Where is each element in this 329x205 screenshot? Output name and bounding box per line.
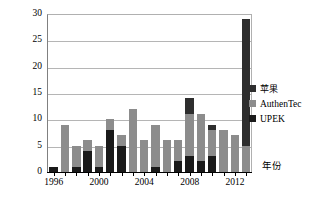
x-tick <box>218 172 229 176</box>
x-axis-label-2008: 2008 <box>180 177 199 187</box>
bar-series-group <box>48 14 252 172</box>
legend-label-authentec: AuthenTec <box>260 99 302 109</box>
legend-item-upek: UPEK <box>249 112 329 125</box>
bar-2001 <box>106 119 114 172</box>
bar-slot <box>48 14 59 172</box>
bar-2007 <box>174 140 182 172</box>
bar-segment <box>83 140 91 151</box>
y-tick-20: 20 <box>24 62 42 72</box>
bar-slot <box>161 14 172 172</box>
bar-segment <box>231 135 239 172</box>
bar-chart: 30 25 20 15 10 5 0 申请量/项 199620002004200… <box>0 0 329 205</box>
bar-slot <box>71 14 82 172</box>
bar-segment <box>106 119 114 130</box>
bar-slot <box>173 14 184 172</box>
bar-segment <box>185 156 193 172</box>
x-tick <box>195 172 206 176</box>
bar-slot <box>150 14 161 172</box>
x-tick <box>229 172 240 176</box>
x-tick <box>173 172 184 176</box>
x-tick <box>207 172 218 176</box>
bar-segment <box>208 156 216 172</box>
bar-segment <box>208 130 216 156</box>
legend-label-apple: 苹果 <box>260 84 278 94</box>
bar-segment <box>197 114 205 161</box>
bar-segment <box>129 109 137 172</box>
bar-segment <box>197 161 205 172</box>
bar-slot <box>82 14 93 172</box>
legend-label-upek: UPEK <box>260 114 285 124</box>
x-axis-title: 年份 <box>262 158 282 172</box>
bar-2010 <box>208 125 216 172</box>
bar-segment <box>83 151 91 172</box>
bar-2004 <box>140 140 148 172</box>
legend-item-authentec: AuthenTec <box>249 97 329 110</box>
x-axis-label-2012: 2012 <box>226 177 245 187</box>
y-axis-title: 申请量/项 <box>0 106 48 145</box>
bar-slot <box>105 14 116 172</box>
bar-slot <box>218 14 229 172</box>
legend: 苹果 AuthenTec UPEK <box>249 82 329 127</box>
x-axis-label-2004: 2004 <box>135 177 154 187</box>
bar-segment <box>185 114 193 156</box>
y-tick-0: 0 <box>24 167 42 177</box>
x-axis-ticks <box>48 172 252 176</box>
y-axis-labels: 30 25 20 15 10 5 0 <box>24 0 42 205</box>
bar-segment <box>151 125 159 167</box>
bar-segment <box>140 140 148 172</box>
bar-2011 <box>219 130 227 172</box>
y-axis-title-wrap: 申请量/项 <box>8 50 22 130</box>
legend-item-apple: 苹果 <box>249 82 329 95</box>
legend-swatch-authentec-icon <box>249 100 256 107</box>
x-tick <box>161 172 172 176</box>
x-tick <box>116 172 127 176</box>
bar-slot <box>93 14 104 172</box>
bar-slot <box>207 14 218 172</box>
bar-2002 <box>117 135 125 172</box>
bar-slot <box>195 14 206 172</box>
x-tick <box>82 172 93 176</box>
x-tick <box>127 172 138 176</box>
x-tick <box>105 172 116 176</box>
bar-segment <box>95 146 103 167</box>
bar-segment <box>106 130 114 172</box>
x-tick <box>150 172 161 176</box>
bar-segment <box>174 161 182 172</box>
bar-segment <box>117 135 125 146</box>
bar-slot <box>229 14 240 172</box>
x-axis-label-2000: 2000 <box>90 177 109 187</box>
bar-segment <box>185 98 193 114</box>
y-tick-15: 15 <box>24 88 42 98</box>
legend-swatch-apple-icon <box>249 85 256 92</box>
x-tick <box>241 172 252 176</box>
legend-swatch-upek-icon <box>249 115 256 122</box>
x-axis-labels: 19962000200420082012 <box>48 177 252 191</box>
bar-2000 <box>95 146 103 172</box>
bar-2003 <box>129 109 137 172</box>
bar-2012 <box>231 135 239 172</box>
bar-segment <box>174 140 182 161</box>
bar-segment <box>163 140 171 172</box>
bar-1997 <box>61 125 69 172</box>
bar-slot <box>127 14 138 172</box>
bar-2009 <box>197 114 205 172</box>
bar-segment <box>219 130 227 172</box>
bar-slot <box>59 14 70 172</box>
bar-1998 <box>72 146 80 172</box>
bar-2005 <box>151 125 159 172</box>
bar-segment <box>242 146 250 172</box>
bar-slot <box>116 14 127 172</box>
bar-1999 <box>83 140 91 172</box>
x-tick <box>139 172 150 176</box>
x-tick <box>48 172 59 176</box>
x-tick <box>71 172 82 176</box>
x-axis-label-1996: 1996 <box>44 177 63 187</box>
x-tick <box>93 172 104 176</box>
bar-2008 <box>185 98 193 172</box>
bar-slot <box>184 14 195 172</box>
x-tick <box>184 172 195 176</box>
bar-2006 <box>163 140 171 172</box>
bar-slot <box>139 14 150 172</box>
y-tick-25: 25 <box>24 35 42 45</box>
y-tick-30: 30 <box>24 9 42 19</box>
